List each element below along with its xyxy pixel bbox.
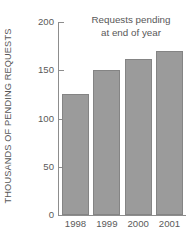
x-axis-labels: 1998 1999 2000 2001 bbox=[59, 218, 186, 229]
plot-area: 200 150 100 50 0 bbox=[58, 22, 186, 215]
y-tick-label: 100 bbox=[38, 113, 54, 124]
x-label-2001: 2001 bbox=[154, 218, 185, 229]
x-axis-line bbox=[58, 215, 186, 216]
y-tick-label: 200 bbox=[38, 16, 54, 27]
bar-1998 bbox=[62, 94, 89, 215]
y-axis-title: THOUSANDS OF PENDING REQUESTS bbox=[0, 0, 16, 232]
y-tick-label: 0 bbox=[49, 209, 54, 220]
y-tick-label: 50 bbox=[43, 161, 54, 172]
y-axis-title-label: THOUSANDS OF PENDING REQUESTS bbox=[3, 29, 13, 204]
x-label-2000: 2000 bbox=[123, 218, 154, 229]
y-tick-0: 0 bbox=[58, 215, 64, 216]
x-label-1998: 1998 bbox=[60, 218, 91, 229]
bar-2001 bbox=[156, 51, 183, 215]
y-tick-mark bbox=[59, 215, 64, 216]
bar-2000 bbox=[125, 59, 152, 215]
bar-1999 bbox=[93, 70, 120, 215]
bar-chart-figure: THOUSANDS OF PENDING REQUESTS Requests p… bbox=[0, 0, 193, 249]
x-label-1999: 1999 bbox=[91, 218, 122, 229]
bar-series bbox=[59, 22, 186, 215]
y-tick-label: 150 bbox=[38, 64, 54, 75]
